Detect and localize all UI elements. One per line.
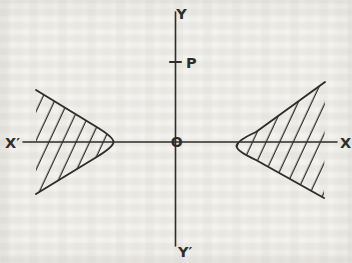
y-axis-top-label: Y <box>175 6 187 22</box>
x-axis-right-label: X <box>340 135 351 151</box>
y-axis-bottom-label: Y′ <box>177 244 192 260</box>
left-branch-hatching <box>36 90 114 194</box>
x-axis-left-label: X′ <box>5 135 20 151</box>
origin-label: O <box>171 134 183 150</box>
book-page: Y P X′ X Y′ O <box>0 0 352 263</box>
hyperbola-regions-diagram: Y P X′ X Y′ O <box>0 0 352 263</box>
right-branch-hatching <box>237 82 326 198</box>
point-p-label: P <box>186 55 197 71</box>
